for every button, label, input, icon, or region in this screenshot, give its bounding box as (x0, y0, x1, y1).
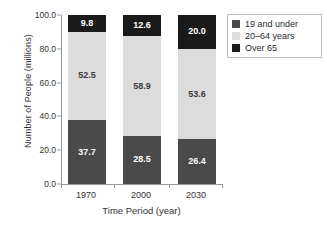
legend-item[interactable]: 20–64 years (232, 30, 317, 41)
legend-item[interactable]: Over 65 (232, 42, 317, 53)
legend-swatch-icon (232, 44, 240, 52)
chart-legend: 19 and under20–64 yearsOver 65 (227, 14, 322, 58)
legend-item[interactable]: 19 and under (232, 18, 317, 29)
y-tick-label: 100.0 (28, 10, 56, 20)
x-tick-mark (222, 184, 223, 188)
legend-swatch-icon (232, 32, 240, 40)
bar-value-label: 58.9 (133, 82, 151, 91)
x-axis-tick-labels: 197020002030 (61, 184, 222, 206)
y-tick-label: 20.0 (28, 145, 56, 155)
bar-segment[interactable]: 20.0 (178, 15, 216, 49)
bar-value-label: 28.5 (133, 155, 151, 164)
legend-label: 19 and under (245, 19, 298, 29)
y-axis-tick-labels: 0.020.040.060.080.0100.0 (28, 10, 56, 190)
bar-segment[interactable]: 52.5 (68, 32, 106, 121)
bar-value-label: 26.4 (188, 157, 206, 166)
x-tick-mark (169, 184, 170, 188)
bar-segment[interactable]: 53.6 (178, 49, 216, 140)
bar-segment[interactable]: 58.9 (123, 36, 161, 136)
plot-area: 37.752.59.828.558.912.626.453.620.0 (62, 15, 222, 184)
x-tick-label: 1970 (76, 190, 96, 200)
x-tick-mark (114, 184, 115, 188)
bar-value-label: 52.5 (78, 71, 96, 80)
y-tick-mark (57, 15, 61, 16)
y-tick-mark (57, 150, 61, 151)
y-tick-mark (57, 184, 61, 185)
bar-segment[interactable]: 26.4 (178, 139, 216, 184)
bar-segment[interactable]: 28.5 (123, 136, 161, 184)
y-tick-label: 0.0 (28, 179, 56, 189)
bar-group[interactable]: 26.453.620.0 (178, 15, 216, 184)
y-tick-mark (57, 48, 61, 49)
x-tick-mark (61, 184, 62, 188)
x-tick-label: 2000 (131, 190, 151, 200)
y-tick-label: 80.0 (28, 44, 56, 54)
bar-group[interactable]: 37.752.59.8 (68, 15, 106, 184)
y-tick-label: 60.0 (28, 78, 56, 88)
chart-screenshot: Number of People (millions) 0.020.040.06… (0, 0, 327, 227)
x-axis-title: Time Period (year) (61, 205, 222, 216)
y-tick-mark (57, 116, 61, 117)
bar-value-label: 9.8 (81, 19, 94, 28)
bar-value-label: 53.6 (188, 90, 206, 99)
bar-value-label: 20.0 (188, 27, 206, 36)
y-tick-mark (57, 82, 61, 83)
legend-label: 20–64 years (245, 31, 295, 41)
bar-segment[interactable]: 37.7 (68, 120, 106, 184)
bar-segment[interactable]: 12.6 (123, 15, 161, 36)
x-tick-label: 2030 (186, 190, 206, 200)
legend-swatch-icon (232, 20, 240, 28)
y-tick-label: 40.0 (28, 111, 56, 121)
bar-segment[interactable]: 9.8 (68, 15, 106, 32)
bar-group[interactable]: 28.558.912.6 (123, 15, 161, 184)
bar-value-label: 12.6 (133, 21, 151, 30)
bar-value-label: 37.7 (78, 148, 96, 157)
legend-label: Over 65 (245, 43, 277, 53)
